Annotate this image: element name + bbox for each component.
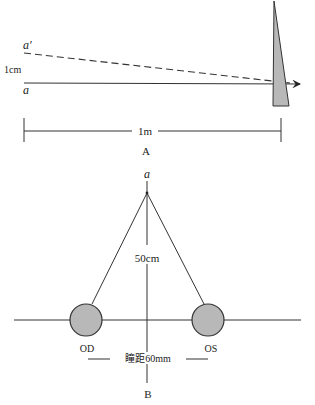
- fixation-dot: [146, 192, 149, 195]
- label-a: a: [23, 83, 29, 97]
- panel-b-label: B: [144, 388, 151, 400]
- label-od: OD: [80, 343, 94, 354]
- label-distance: 1m: [138, 125, 153, 137]
- sight-line-os: [147, 193, 204, 304]
- fixation-distance-label: 50cm: [135, 252, 160, 264]
- label-a-prime: a′: [23, 38, 32, 52]
- dashed-deviated-ray: [24, 53, 290, 83]
- panel-b: a 50cm OD OS 瞳距60mm B: [14, 167, 301, 400]
- fixation-point-label: a: [144, 167, 150, 181]
- prism-icon: [273, 1, 289, 106]
- label-displacement: 1cm: [4, 64, 21, 75]
- panel-a: a′ 1cm a 1m A: [4, 1, 300, 157]
- eye-od-icon: [70, 304, 102, 336]
- prism-diagram: a′ 1cm a 1m A a 50cm OD OS 瞳距60mm B: [0, 0, 315, 405]
- panel-a-label: A: [142, 145, 150, 157]
- pupillary-distance-label: 瞳距60mm: [125, 352, 171, 364]
- label-os: OS: [205, 343, 218, 354]
- sight-line-od: [92, 193, 147, 304]
- straight-ray: [24, 83, 300, 84]
- eye-os-icon: [192, 304, 224, 336]
